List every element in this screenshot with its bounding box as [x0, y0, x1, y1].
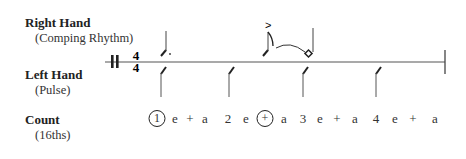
count-syllable: 2	[225, 111, 232, 127]
count-syllable: e	[243, 111, 249, 127]
count-syllable: e	[392, 111, 398, 127]
diamond-notehead	[305, 50, 312, 57]
count-syllable: +	[333, 111, 340, 127]
lh-pulse-note	[229, 67, 234, 97]
count-syllable: 4	[373, 111, 380, 127]
count-syllable: e	[317, 111, 323, 127]
slash-notehead	[229, 67, 234, 74]
count-syllable: +	[186, 111, 193, 127]
dot	[169, 53, 171, 55]
rh-note-2: >	[263, 19, 305, 56]
count-syllable-circled: +	[257, 110, 274, 127]
lh-pulse-note	[303, 67, 308, 97]
double-bar-thick-2	[116, 55, 119, 68]
rh-note-1	[161, 31, 171, 56]
tie-arc	[276, 45, 305, 52]
accent-mark: >	[265, 19, 271, 31]
slash-notehead	[376, 67, 381, 74]
count-syllable: a	[281, 111, 287, 127]
count-syllable-circled: 1	[149, 110, 166, 127]
rhythm-staff: 4 4 >	[0, 0, 466, 159]
count-syllable: +	[409, 111, 416, 127]
count-syllable: 3	[300, 111, 307, 127]
slash-notehead	[303, 67, 308, 74]
count-syllable: e	[172, 111, 178, 127]
note-flag	[268, 32, 273, 46]
rh-note-3	[305, 28, 313, 57]
slash-notehead	[263, 50, 268, 56]
slash-notehead	[161, 67, 166, 74]
lh-pulse-note	[376, 67, 381, 97]
count-syllable: a	[432, 111, 438, 127]
time-signature-bottom: 4	[133, 60, 140, 75]
count-syllable: a	[202, 111, 208, 127]
double-bar-thick-1	[111, 55, 114, 68]
lh-pulse-note	[161, 67, 166, 97]
count-syllable: a	[352, 111, 358, 127]
slash-notehead	[161, 50, 166, 56]
left-hand-pulse	[161, 67, 381, 97]
